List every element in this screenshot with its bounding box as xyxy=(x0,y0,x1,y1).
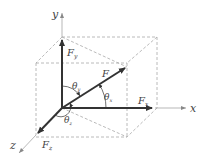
f-label: F xyxy=(101,68,110,79)
theta-z-label: θz xyxy=(64,115,72,126)
fz-vector xyxy=(38,108,62,133)
labels: y x z Fy F Fx Fz θy θx θz xyxy=(9,8,197,152)
x-axis-label: x xyxy=(190,102,197,115)
fy-label: Fy xyxy=(66,47,78,60)
fz-label: Fz xyxy=(41,139,53,151)
y-axis-label: y xyxy=(51,8,59,21)
force-vectors xyxy=(38,40,152,133)
theta-x-label: θx xyxy=(104,92,112,103)
z-axis xyxy=(19,135,36,153)
z-axis-label: z xyxy=(9,139,16,152)
force-diagram: y x z Fy F Fx Fz θy θx θz xyxy=(0,0,207,161)
fx-label: Fx xyxy=(137,95,149,107)
